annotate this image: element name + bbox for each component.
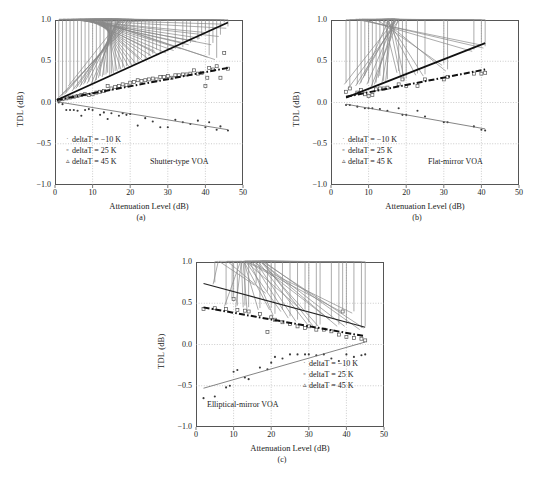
legend-marker-dot-icon: · bbox=[63, 134, 72, 145]
legend-a: ·deltaT = −10 K▫deltaT = 25 K▵deltaT = 4… bbox=[63, 134, 121, 167]
legend-label-a-0: deltaT = −10 K bbox=[72, 134, 121, 145]
y-tick-c-2: 0.0 bbox=[166, 340, 192, 349]
device-label-a: Shutter-type VOA bbox=[150, 157, 209, 166]
legend-marker-dot-icon: · bbox=[339, 134, 348, 145]
x-axis-label-c: Attenuation Level (dB) bbox=[196, 443, 384, 453]
legend-c: ·deltaT = −10 K▫deltaT = 25 K▵deltaT = 4… bbox=[300, 358, 358, 391]
x-tickmarks-a bbox=[54, 185, 244, 195]
panel-sublabel-a: (a) bbox=[121, 213, 161, 222]
legend-item-b-2: ▵deltaT = 45 K bbox=[339, 156, 397, 167]
y-tick-b-1: −0.5 bbox=[301, 139, 327, 148]
legend-item-c-2: ▵deltaT = 45 K bbox=[300, 380, 358, 391]
legend-marker-triangle-icon: ▵ bbox=[339, 156, 348, 167]
y-axis-label-b: TDL (dB) bbox=[291, 91, 301, 127]
y-tick-c-4: 1.0 bbox=[166, 257, 192, 266]
y-tick-b-4: 1.0 bbox=[301, 15, 327, 24]
legend-label-b-2: deltaT = 45 K bbox=[348, 156, 393, 167]
figure-three-panel-tdl-charts: −1.0−0.50.00.51.001020304050TDL (dB)Atte… bbox=[0, 0, 559, 480]
legend-marker-square-icon: ▫ bbox=[63, 145, 72, 156]
panel-sublabel-c: (c) bbox=[262, 455, 302, 464]
x-axis-label-b: Attenuation Level (dB) bbox=[331, 201, 519, 211]
y-tick-a-1: −0.5 bbox=[25, 139, 51, 148]
legend-label-a-2: deltaT = 45 K bbox=[72, 156, 117, 167]
x-tickmarks-c bbox=[195, 427, 385, 437]
y-tick-a-2: 0.0 bbox=[25, 98, 51, 107]
legend-item-b-1: ▫deltaT = 25 K bbox=[339, 145, 397, 156]
legend-item-b-0: ·deltaT = −10 K bbox=[339, 134, 397, 145]
y-tick-b-3: 0.5 bbox=[301, 56, 327, 65]
legend-item-a-1: ▫deltaT = 25 K bbox=[63, 145, 121, 156]
y-tick-c-1: −0.5 bbox=[166, 381, 192, 390]
panel-sublabel-b: (b) bbox=[397, 213, 437, 222]
y-axis-label-c: TDL (dB) bbox=[156, 333, 166, 369]
y-tick-a-4: 1.0 bbox=[25, 15, 51, 24]
x-tickmarks-b bbox=[330, 185, 520, 195]
device-label-b: Flat-mirror VOA bbox=[428, 157, 483, 166]
x-axis-label-a: Attenuation Level (dB) bbox=[55, 201, 243, 211]
legend-marker-triangle-icon: ▵ bbox=[63, 156, 72, 167]
legend-item-a-2: ▵deltaT = 45 K bbox=[63, 156, 121, 167]
legend-label-b-0: deltaT = −10 K bbox=[348, 134, 397, 145]
legend-marker-square-icon: ▫ bbox=[339, 145, 348, 156]
y-tick-c-3: 0.5 bbox=[166, 298, 192, 307]
legend-label-b-1: deltaT = 25 K bbox=[348, 145, 393, 156]
y-tick-a-3: 0.5 bbox=[25, 56, 51, 65]
legend-marker-triangle-icon: ▵ bbox=[300, 380, 309, 391]
legend-label-c-1: deltaT = 25 K bbox=[309, 369, 354, 380]
legend-b: ·deltaT = −10 K▫deltaT = 25 K▵deltaT = 4… bbox=[339, 134, 397, 167]
legend-item-a-0: ·deltaT = −10 K bbox=[63, 134, 121, 145]
legend-label-a-1: deltaT = 25 K bbox=[72, 145, 117, 156]
legend-item-c-0: ·deltaT = −10 K bbox=[300, 358, 358, 369]
legend-label-c-0: deltaT = −10 K bbox=[309, 358, 358, 369]
device-label-c: Elliptical-mirror VOA bbox=[207, 400, 279, 409]
y-tick-b-2: 0.0 bbox=[301, 98, 327, 107]
legend-item-c-1: ▫deltaT = 25 K bbox=[300, 369, 358, 380]
legend-marker-dot-icon: · bbox=[300, 358, 309, 369]
legend-label-c-2: deltaT = 45 K bbox=[309, 380, 354, 391]
legend-marker-square-icon: ▫ bbox=[300, 369, 309, 380]
y-axis-label-a: TDL (dB) bbox=[15, 91, 25, 127]
